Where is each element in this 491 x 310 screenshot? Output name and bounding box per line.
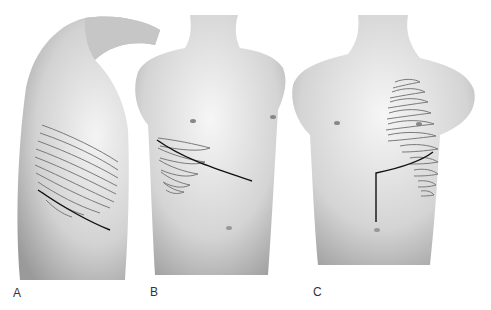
panel-c-label: C [313, 285, 322, 299]
panel-b-nipple-right [190, 119, 196, 123]
panel-c-illustration [292, 15, 475, 265]
figure-canvas [0, 0, 491, 310]
panel-a-illustration [18, 17, 160, 281]
panel-b-illustration [135, 15, 285, 275]
panel-b-label: B [150, 285, 158, 299]
panel-a-label: A [13, 286, 21, 300]
panel-c-navel [374, 228, 380, 232]
panel-b-navel [226, 226, 232, 230]
panel-c-nipple-right [334, 121, 340, 125]
panel-b-nipple-left [270, 115, 276, 119]
